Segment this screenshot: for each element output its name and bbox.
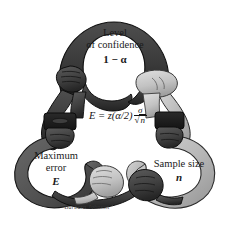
bottom-right-hand [129, 170, 164, 201]
hand-clasp-mid-left [44, 113, 76, 148]
hand-clasp-mid-right [155, 112, 184, 148]
mid-left-cuff-band [52, 118, 68, 123]
mid-right-cuff [155, 112, 184, 129]
top-left-fist [56, 66, 86, 92]
diagram-artwork [0, 0, 229, 230]
confidence-ring-lower-left [82, 82, 132, 111]
mid-right-hand [156, 127, 183, 148]
handshake-triangle-figure: Level of confidence 1 − α Maximum error … [0, 0, 229, 230]
